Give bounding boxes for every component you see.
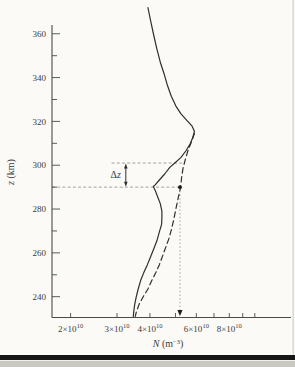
ionosphere-density-profile-chart: 2×10103×10104×10106×10108×10102402602803… — [0, 0, 295, 355]
y-axis-title: z (km) — [5, 159, 17, 186]
delta-z-arrowhead-down — [124, 182, 128, 187]
y-tick-label: 280 — [33, 204, 47, 214]
y-tick-label: 360 — [33, 29, 47, 39]
delta-z-arrowhead-up — [124, 164, 128, 169]
y-tick-label: 300 — [33, 160, 47, 170]
page-margin-strip — [0, 360, 295, 367]
y-tick-label: 340 — [33, 73, 47, 83]
x-tick-label: 4×1010 — [137, 322, 162, 334]
down-arrow-marker — [177, 310, 182, 316]
y-tick-label: 320 — [33, 117, 47, 127]
marker-dot — [178, 185, 182, 189]
x-tick-label: 2×1010 — [58, 322, 83, 334]
x-tick-label: 3×1010 — [104, 322, 129, 334]
x-axis-title: N (m−3) — [152, 338, 184, 351]
textbook-figure-page: 2×10103×10104×10106×10108×10102402602803… — [0, 0, 295, 367]
x-tick-label: 8×1010 — [217, 322, 242, 334]
x-tick-label: 6×1010 — [184, 322, 209, 334]
chart-canvas: 2×10103×10104×10106×10108×10102402602803… — [0, 0, 295, 355]
y-tick-label: 260 — [33, 248, 47, 258]
delta-z-label: Δz — [110, 169, 120, 180]
y-tick-label: 240 — [33, 292, 47, 302]
dashed-density-curve — [135, 134, 194, 317]
